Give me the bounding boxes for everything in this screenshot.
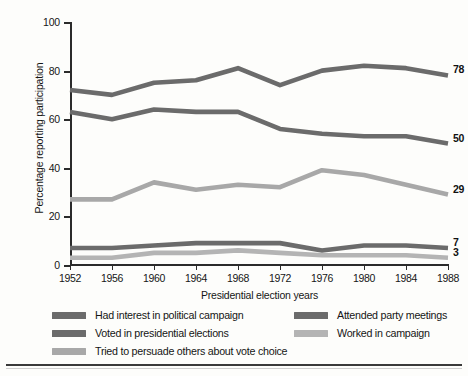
series-line-0 <box>70 66 448 95</box>
x-tick <box>322 265 323 270</box>
legend-item-label: Worked in campaign <box>337 326 430 340</box>
legend-column-right: Attended party meetingsWorked in campaig… <box>294 308 468 344</box>
legend-swatch-icon <box>294 312 328 319</box>
x-tick-label: 1980 <box>353 272 375 284</box>
end-label-4: 3 <box>453 246 459 258</box>
plot-area: 020406080100 195219561960196419681972197… <box>70 22 448 265</box>
series-line-4 <box>70 250 448 257</box>
legend-swatch-icon <box>52 348 86 355</box>
legend-item[interactable]: Worked in campaign <box>294 326 468 340</box>
x-tick <box>112 265 113 270</box>
x-tick <box>154 265 155 270</box>
x-tick <box>70 265 71 270</box>
legend-item[interactable]: Tried to persuade others about vote choi… <box>52 344 302 358</box>
x-tick-label: 1976 <box>311 272 333 284</box>
x-tick-label: 1960 <box>143 272 165 284</box>
legend-item-label: Tried to persuade others about vote choi… <box>95 344 287 358</box>
series-line-3 <box>70 243 448 250</box>
x-axis-title: Presidential election years <box>70 289 449 301</box>
x-tick <box>364 265 365 270</box>
y-tick-label: 20 <box>49 210 60 222</box>
x-tick-label: 1956 <box>101 272 123 284</box>
series-line-2 <box>70 170 448 199</box>
series-line-1 <box>70 109 448 143</box>
x-tick <box>196 265 197 270</box>
x-tick <box>280 265 281 270</box>
y-tick-label: 0 <box>54 259 60 271</box>
footer-divider <box>6 364 462 366</box>
legend-swatch-icon <box>294 330 328 337</box>
y-axis-title: Percentage reporting participation <box>33 23 45 253</box>
y-tick-label: 100 <box>43 16 60 28</box>
legend-item-label: Voted in presidential elections <box>95 326 229 340</box>
y-tick-label: 80 <box>49 65 60 77</box>
x-tick-label: 1968 <box>227 272 249 284</box>
x-tick-label: 1972 <box>269 272 291 284</box>
x-tick <box>406 265 407 270</box>
end-label-1: 50 <box>453 132 464 144</box>
x-tick-label: 1984 <box>395 272 417 284</box>
legend-item-label: Had interest in political campaign <box>95 308 243 322</box>
legend-swatch-icon <box>52 312 86 319</box>
end-label-0: 78 <box>453 63 464 75</box>
x-tick <box>448 265 449 270</box>
x-tick <box>238 265 239 270</box>
y-tick-label: 40 <box>49 162 60 174</box>
footer-divider-shadow <box>6 368 462 369</box>
legend-item[interactable]: Voted in presidential elections <box>52 326 302 340</box>
end-label-2: 29 <box>453 183 464 195</box>
chart-figure: 020406080100 195219561960196419681972197… <box>0 0 468 376</box>
legend-swatch-icon <box>52 330 86 337</box>
legend-item[interactable]: Had interest in political campaign <box>52 308 302 322</box>
x-tick-label: 1964 <box>185 272 207 284</box>
legend-item-label: Attended party meetings <box>337 308 447 322</box>
x-tick-label: 1988 <box>437 272 459 284</box>
x-tick-label: 1952 <box>59 272 81 284</box>
series-lines <box>70 22 448 265</box>
legend-column-left: Had interest in political campaignVoted … <box>52 308 302 362</box>
legend-item[interactable]: Attended party meetings <box>294 308 468 322</box>
y-tick-label: 60 <box>49 113 60 125</box>
